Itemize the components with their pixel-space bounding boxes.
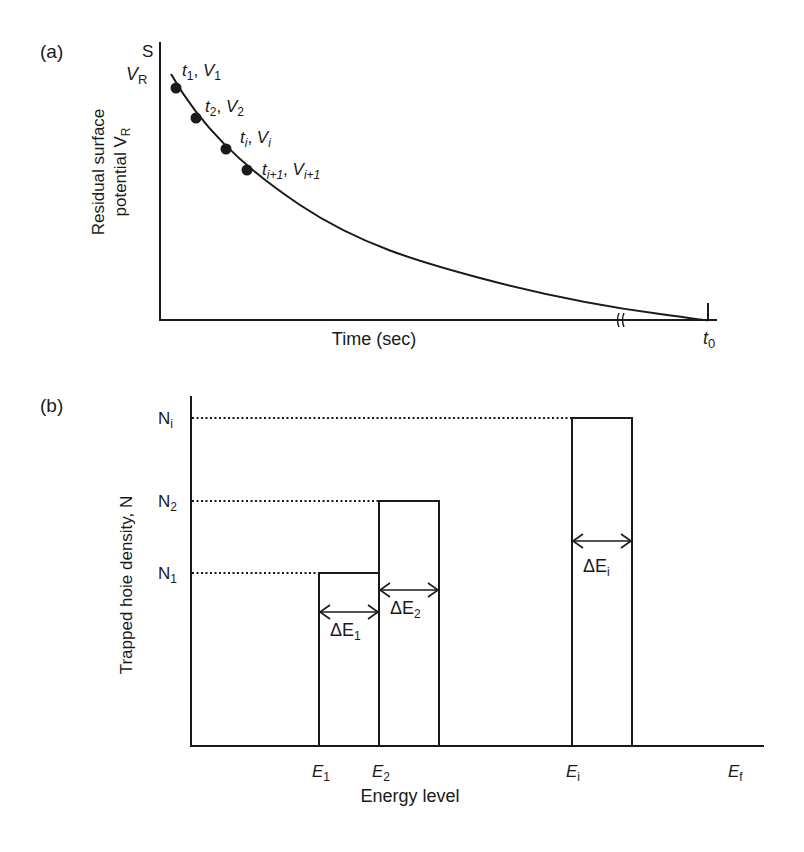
tick-label-e1: E1 — [312, 762, 330, 784]
data-point-i-plus-1 — [242, 165, 253, 176]
panel-a-x-title: Time (sec) — [332, 329, 416, 349]
bar-e2 — [379, 501, 439, 746]
width-arrow-ei — [573, 534, 631, 548]
width-arrow-e1 — [320, 605, 378, 619]
decay-curve — [171, 74, 710, 320]
bar-ei — [572, 418, 632, 746]
bar-e1 — [319, 573, 379, 746]
data-point-2 — [191, 113, 202, 124]
level-label-n2: N2 — [158, 492, 177, 514]
s-label: S — [142, 42, 153, 61]
delta-e2-label: ΔE2 — [390, 598, 421, 621]
figure-canvas: (a) S VR Residual surface potential VR t… — [0, 0, 804, 852]
panel-a-label: (a) — [40, 41, 63, 62]
tick-label-e2: E2 — [372, 762, 390, 784]
panel-a-y-title: Residual surface potential VR — [89, 109, 133, 236]
panel-b-label: (b) — [40, 395, 63, 416]
delta-ei-label: ΔEi — [583, 556, 610, 579]
data-point-1 — [171, 83, 182, 94]
panel-b-y-title: Trapped hoie density, N — [117, 496, 136, 675]
level-label-ni: Ni — [158, 409, 173, 431]
tick-label-ei: Ei — [566, 762, 580, 784]
data-point-i — [221, 144, 232, 155]
width-arrow-e2 — [380, 583, 438, 597]
svg-text:Residual surface: Residual surface — [89, 109, 108, 236]
point-label-1: t1, V1 — [182, 61, 221, 83]
point-label-i: ti, Vi — [240, 128, 271, 150]
tick-label-ef: Ef — [728, 762, 743, 784]
level-label-n1: N1 — [158, 564, 177, 586]
svg-text:potential VR: potential VR — [111, 127, 133, 216]
t0-label: t0 — [703, 328, 715, 351]
point-label-i-plus-1: ti+1, Vi+1 — [262, 160, 320, 182]
vr-label: VR — [126, 64, 147, 87]
point-label-2: t2, V2 — [205, 97, 244, 119]
panel-b-x-title: Energy level — [360, 786, 459, 806]
delta-e1-label: ΔE1 — [330, 620, 361, 643]
